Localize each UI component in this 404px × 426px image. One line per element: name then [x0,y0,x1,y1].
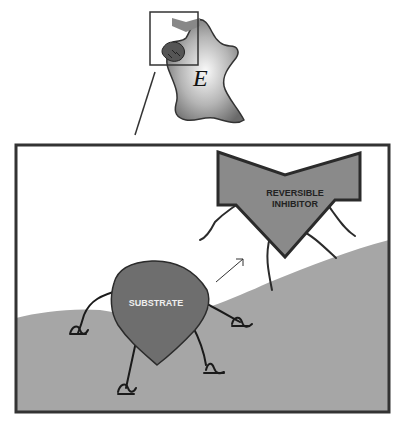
zoomed-frame: REVERSIBLE INHIBITOR SUBSTRATE [16,145,389,412]
enzyme-overview: E [135,12,244,135]
enzyme-inhibition-diagram: E REVERSIBLE INHIBITOR [0,0,404,426]
substrate-label: SUBSTRATE [129,298,183,308]
connector-line [135,72,155,135]
inhibitor-label-line1: REVERSIBLE [266,188,324,198]
inhibitor-label-line2: INHIBITOR [272,199,318,209]
enzyme-letter: E [192,65,208,91]
